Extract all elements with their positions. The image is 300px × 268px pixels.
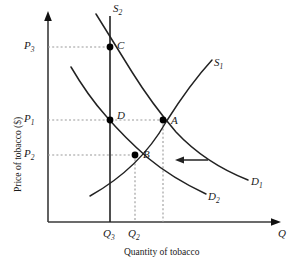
- y-axis-arrowhead: [44, 11, 52, 21]
- y-tick-label-p2: P2: [24, 148, 34, 162]
- supply-demand-diagram: P3 P1 P2 Q3 Q2 C D A B S2 S1 D1 D2 Q Pri…: [0, 0, 300, 268]
- point-label-a: A: [171, 115, 178, 126]
- y-axis-title: Price of tobacco ($): [14, 117, 24, 192]
- curve-label-s2: S2: [113, 3, 122, 17]
- x-axis-symbol: Q: [278, 228, 286, 239]
- curve-s1-supply: [90, 60, 212, 196]
- guide-lines-group: [48, 47, 163, 222]
- demand-shift-arrow: [175, 156, 208, 163]
- point-c-marker: [107, 44, 114, 51]
- y-tick-label-p3: P3: [24, 40, 34, 54]
- point-label-d: D: [117, 110, 125, 121]
- curve-label-s1: S1: [214, 57, 223, 71]
- curve-d2-demand: [71, 67, 206, 194]
- curve-label-d2: D2: [208, 191, 220, 205]
- point-b-marker: [132, 152, 139, 159]
- equilibrium-points-group: [107, 44, 167, 159]
- point-label-b: B: [143, 149, 150, 160]
- point-a-marker: [160, 117, 167, 124]
- diagram-canvas: [0, 0, 300, 268]
- curve-label-d1: D1: [251, 176, 263, 190]
- x-tick-label-q2: Q2: [128, 228, 140, 242]
- point-label-c: C: [117, 40, 124, 51]
- x-axis-arrowhead: [271, 218, 281, 226]
- shift-arrow-head: [175, 156, 184, 163]
- x-tick-label-q3: Q3: [103, 228, 115, 242]
- y-tick-label-p1: P1: [24, 113, 34, 127]
- x-axis-title: Quantity of tobacco: [124, 248, 199, 258]
- point-d-marker: [107, 117, 114, 124]
